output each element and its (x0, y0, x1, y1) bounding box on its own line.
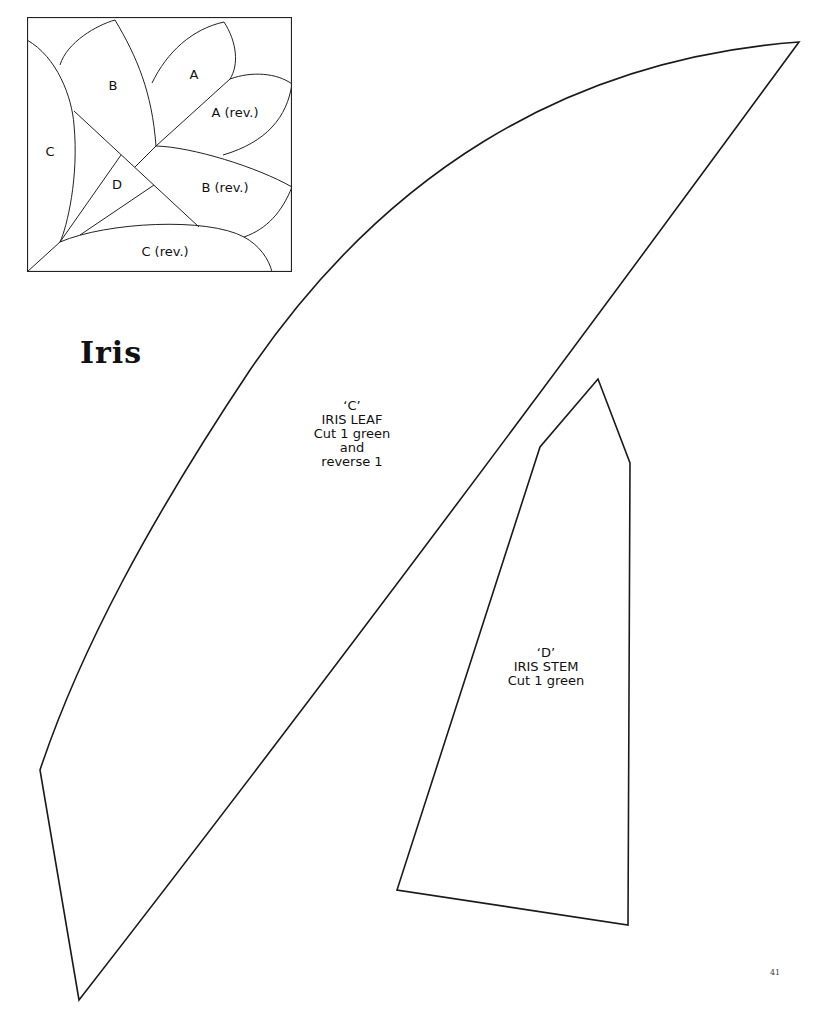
pattern-page: B A A (rev.) C D B (rev.) C (rev.) Iris … (0, 0, 832, 1014)
leaf-piece-instruction-and: and (314, 441, 391, 455)
leaf-piece-label: ‘C’ IRIS LEAF Cut 1 green and reverse 1 (314, 399, 391, 469)
stem-piece-code: ‘D’ (508, 646, 585, 660)
leaf-piece-code: ‘C’ (314, 399, 391, 413)
stem-piece-instruction: Cut 1 green (508, 674, 585, 688)
iris-leaf-outline (40, 42, 799, 1000)
pattern-pieces (0, 0, 832, 1014)
page-number: 41 (770, 968, 780, 977)
leaf-piece-name: IRIS LEAF (314, 413, 391, 427)
leaf-piece-instruction: Cut 1 green (314, 427, 391, 441)
stem-piece-label: ‘D’ IRIS STEM Cut 1 green (508, 646, 585, 688)
leaf-piece-instruction-reverse: reverse 1 (314, 455, 391, 469)
stem-piece-name: IRIS STEM (508, 660, 585, 674)
